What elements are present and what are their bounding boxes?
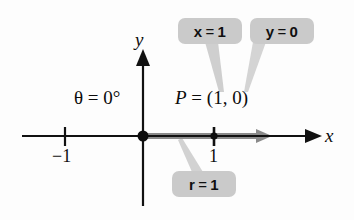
theta-label: θ = 0°	[74, 88, 120, 107]
tick-label-one: 1	[209, 147, 218, 165]
callout-y-var: y	[266, 24, 275, 39]
callout-r-eq: =	[195, 177, 210, 192]
callout-r-value: 1	[210, 177, 219, 192]
callout-y-eq: =	[274, 24, 289, 39]
callout-y-equals-0: y = 0	[250, 18, 314, 44]
x-axis-label: x	[325, 126, 333, 145]
callout-x-equals-1: x = 1	[178, 18, 242, 44]
y-axis-label: y	[135, 30, 143, 49]
y-axis	[136, 49, 150, 206]
callout-x-value: 1	[218, 24, 227, 39]
callout-tail-x	[205, 42, 224, 92]
callout-x-var: x	[194, 24, 203, 39]
point-p-symbol: P	[175, 87, 187, 108]
origin-point	[138, 131, 149, 142]
callout-x-eq: =	[202, 24, 217, 39]
point-p-equals: =	[187, 87, 207, 108]
point-p-coordinates: (1, 0)	[207, 87, 248, 108]
callout-r-equals-1: r = 1	[172, 171, 236, 197]
unit-circle-figure: x y −1 1 θ = 0° P = (1, 0) x = 1 y = 0 r…	[0, 0, 354, 220]
point-p-label: P = (1, 0)	[175, 88, 248, 107]
x-axis	[22, 127, 322, 146]
callout-y-value: 0	[290, 24, 299, 39]
callout-tail-r	[178, 138, 203, 172]
tick-label-negative-one: −1	[52, 147, 71, 165]
callout-tail-y	[244, 42, 266, 92]
point-p-marker	[210, 132, 217, 139]
